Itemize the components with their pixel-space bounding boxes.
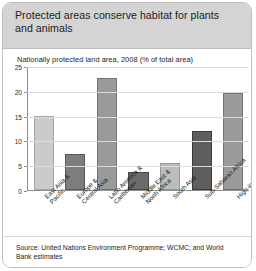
- bar-slot: [60, 67, 92, 190]
- y-tick-mark: [24, 67, 27, 68]
- y-tick-label: 20: [15, 88, 22, 95]
- y-tick-label: 15: [15, 113, 22, 120]
- y-tick-mark: [24, 117, 27, 118]
- x-label-slot: Latin America &Caribbean: [91, 193, 123, 237]
- y-tick-mark: [24, 141, 27, 142]
- y-tick-mark: [24, 92, 27, 93]
- page-title: Protected areas conserve habitat for pla…: [15, 9, 239, 36]
- y-tick-mark: [24, 191, 27, 192]
- y-tick-label: 0: [18, 188, 22, 195]
- chart-card: Protected areas conserve habitat for pla…: [2, 2, 252, 268]
- chart-area: Nationally protected land area, 2008 (% …: [3, 49, 251, 236]
- y-tick-label: 5: [18, 163, 22, 170]
- x-label-slot: Sub-Saharan Africa: [187, 193, 219, 237]
- y-tick-label: 25: [15, 64, 22, 71]
- grid-line: [27, 141, 249, 142]
- y-tick-label: 10: [15, 138, 22, 145]
- bar-slot: [91, 67, 123, 190]
- card-header: Protected areas conserve habitat for pla…: [3, 3, 251, 49]
- grid-line: [27, 67, 249, 68]
- bar-slot: [186, 67, 218, 190]
- y-tick-mark: [24, 166, 27, 167]
- bar: [34, 116, 54, 190]
- chart-subtitle: Nationally protected land area, 2008 (% …: [17, 55, 193, 64]
- x-label-slot: Middle East &North Africa: [123, 193, 155, 237]
- bar-slot: [28, 67, 60, 190]
- grid-line: [27, 92, 249, 93]
- source-note: Source: United Nations Environment Progr…: [16, 243, 239, 261]
- x-label-slot: Europe &Central Asia: [59, 193, 91, 237]
- x-label-slot: High-income: [219, 193, 251, 237]
- x-label-slot: East Asia &Pacific: [27, 193, 59, 237]
- x-label-slot: South Asia: [155, 193, 187, 237]
- x-axis-labels: East Asia &PacificEurope &Central AsiaLa…: [27, 193, 251, 237]
- card-footer: Source: United Nations Environment Progr…: [3, 236, 251, 268]
- grid-line: [27, 117, 249, 118]
